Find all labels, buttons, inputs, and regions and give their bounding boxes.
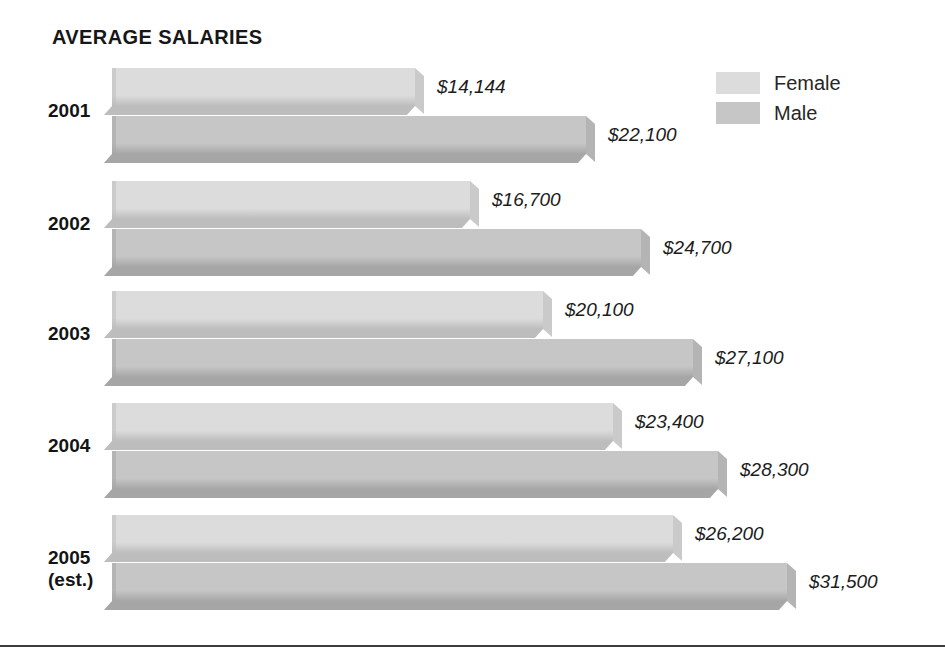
bar-front-face (112, 68, 415, 106)
bar-front-face (112, 563, 787, 601)
bar-shadow-face (104, 553, 673, 562)
plot-area: 2001$14,144$22,1002002$16,700$24,7002003… (0, 0, 945, 661)
bar-left-bevel (112, 229, 116, 267)
year-text: 2005 (48, 547, 90, 568)
bar-female[interactable] (112, 403, 613, 441)
bar-value-label: $31,500 (809, 563, 878, 601)
chart-root: AVERAGE SALARIES FemaleMale 2001$14,144$… (0, 0, 945, 661)
bar-male[interactable] (112, 451, 718, 489)
bar-shadow-face (104, 489, 718, 498)
bar-left-bevel (112, 339, 116, 377)
axis-label-year: 2003 (48, 323, 110, 345)
bar-end-cap (693, 339, 702, 385)
bar-group: 2003$20,100$27,100 (0, 291, 945, 389)
bar-value-label: $16,700 (492, 181, 561, 219)
year-text: 2004 (48, 435, 90, 456)
bar-end-cap (470, 181, 479, 227)
bar-female[interactable] (112, 181, 470, 219)
bar-end-cap (787, 563, 796, 609)
year-text: 2003 (48, 323, 90, 344)
bar-shadow-face (104, 219, 470, 228)
bar-group: 2002$16,700$24,700 (0, 181, 945, 279)
axis-label-year: 2002 (48, 213, 110, 235)
year-text: 2001 (48, 100, 90, 121)
bar-group: 2001$14,144$22,100 (0, 68, 945, 166)
year-text: 2002 (48, 213, 90, 234)
bar-shadow-face (104, 601, 787, 610)
bar-male[interactable] (112, 563, 787, 601)
bar-value-label: $22,100 (608, 116, 677, 154)
bar-value-label: $23,400 (635, 403, 704, 441)
bar-end-cap (586, 116, 595, 162)
bar-left-bevel (112, 116, 116, 154)
bar-shadow-face (104, 329, 543, 338)
bar-left-bevel (112, 291, 116, 329)
bar-value-label: $27,100 (715, 339, 784, 377)
bar-left-bevel (112, 515, 116, 553)
bar-left-bevel (112, 403, 116, 441)
axis-label-year: 2004 (48, 435, 110, 457)
bar-front-face (112, 451, 718, 489)
bar-female[interactable] (112, 515, 673, 553)
bar-front-face (112, 229, 641, 267)
bar-value-label: $26,200 (695, 515, 764, 553)
bar-shadow-face (104, 441, 613, 450)
bar-front-face (112, 291, 543, 329)
bar-shadow-face (104, 106, 415, 115)
bar-shadow-face (104, 377, 693, 386)
bar-shadow-face (104, 154, 586, 163)
bar-front-face (112, 515, 673, 553)
bar-front-face (112, 181, 470, 219)
bar-front-face (112, 116, 586, 154)
bar-end-cap (415, 68, 424, 114)
bar-value-label: $24,700 (663, 229, 732, 267)
bar-group: 2004$23,400$28,300 (0, 403, 945, 501)
bar-male[interactable] (112, 339, 693, 377)
bar-male[interactable] (112, 116, 586, 154)
bar-left-bevel (112, 563, 116, 601)
bar-female[interactable] (112, 68, 415, 106)
bar-front-face (112, 403, 613, 441)
axis-label-year: 2005(est.) (48, 547, 110, 591)
bar-end-cap (641, 229, 650, 275)
bar-left-bevel (112, 68, 116, 106)
axis-label-year: 2001 (48, 100, 110, 122)
bar-shadow-face (104, 267, 641, 276)
bar-value-label: $20,100 (565, 291, 634, 329)
bar-left-bevel (112, 451, 116, 489)
bar-value-label: $28,300 (740, 451, 809, 489)
bar-end-cap (673, 515, 682, 561)
bar-front-face (112, 339, 693, 377)
bar-male[interactable] (112, 229, 641, 267)
bar-value-label: $14,144 (437, 68, 506, 106)
bar-end-cap (718, 451, 727, 497)
bar-left-bevel (112, 181, 116, 219)
bar-female[interactable] (112, 291, 543, 329)
bar-end-cap (613, 403, 622, 449)
bar-group: 2005(est.)$26,200$31,500 (0, 515, 945, 613)
bar-end-cap (543, 291, 552, 337)
year-subtext: (est.) (48, 569, 110, 591)
bottom-divider (0, 645, 945, 647)
